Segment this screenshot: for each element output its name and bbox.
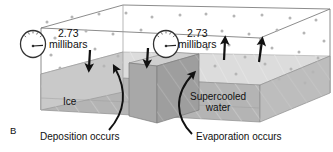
pressure-gauge-icon-left xyxy=(21,31,46,58)
ice-block xyxy=(129,52,199,123)
figure-panel-b: 2.73 millibars 2.73 millibars Ice Superc… xyxy=(0,0,333,152)
deposition-caption: Deposition occurs xyxy=(40,132,119,143)
ice-block-front-face xyxy=(129,63,157,123)
supercooled-water-label-line2: water xyxy=(190,103,246,114)
deposition-arrow-1 xyxy=(89,50,90,68)
supercooled-water-region-label: Supercooled water xyxy=(190,92,246,113)
deposition-arrow-2 xyxy=(147,48,148,64)
supercooled-water-label-line1: Supercooled xyxy=(190,92,246,103)
pressure-gauge-icon-right xyxy=(154,31,179,58)
gauge-reading-right-unit: millibars xyxy=(178,39,217,50)
ice-region-label: Ice xyxy=(63,97,76,108)
gauge-reading-left: 2.73 millibars xyxy=(49,28,88,50)
panel-letter-label: B xyxy=(10,126,16,136)
gauge-reading-right: 2.73 millibars xyxy=(178,28,217,50)
evaporation-caption: Evaporation occurs xyxy=(196,132,282,143)
evaporation-arrow-1 xyxy=(224,40,225,60)
gauge-reading-left-unit: millibars xyxy=(49,39,88,50)
ice-water-vapor-diagram xyxy=(0,0,333,152)
